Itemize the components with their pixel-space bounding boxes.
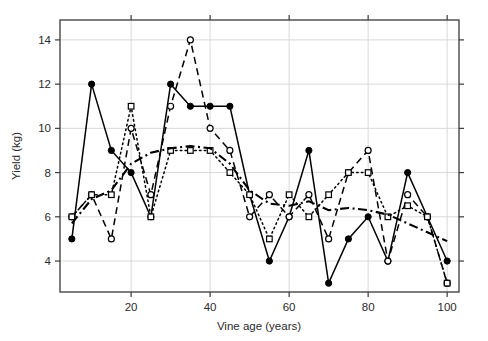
x-tick-label: 20 bbox=[125, 301, 138, 313]
data-point-open-square bbox=[267, 236, 273, 242]
data-point-open-circle bbox=[266, 192, 272, 198]
data-point-open-circle bbox=[128, 125, 134, 131]
data-point-open-square bbox=[89, 192, 95, 198]
data-point-open-square bbox=[286, 192, 292, 198]
data-point-open-square bbox=[306, 214, 312, 220]
data-point-open-circle bbox=[286, 214, 292, 220]
y-tick-label: 6 bbox=[45, 211, 51, 223]
x-tick-label: 100 bbox=[438, 301, 457, 313]
data-point-open-circle bbox=[306, 192, 312, 198]
data-point-filled-circle bbox=[108, 147, 114, 153]
data-point-open-square bbox=[188, 148, 194, 154]
data-point-filled-circle bbox=[89, 81, 95, 87]
x-tick-label: 40 bbox=[204, 301, 217, 313]
y-tick-label: 8 bbox=[45, 167, 51, 179]
data-point-open-square bbox=[405, 203, 411, 209]
y-tick-label: 12 bbox=[38, 78, 51, 90]
y-tick-label: 10 bbox=[38, 122, 51, 134]
data-point-open-circle bbox=[187, 37, 193, 43]
x-axis-title: Vine age (years) bbox=[217, 320, 301, 332]
data-point-open-circle bbox=[108, 236, 114, 242]
data-point-open-square bbox=[346, 170, 352, 176]
data-point-open-square bbox=[128, 103, 134, 109]
data-point-open-circle bbox=[247, 214, 253, 220]
data-point-filled-circle bbox=[128, 169, 134, 175]
data-point-open-square bbox=[109, 192, 115, 198]
data-point-open-circle bbox=[385, 258, 391, 264]
data-point-filled-circle bbox=[187, 103, 193, 109]
data-point-filled-circle bbox=[444, 258, 450, 264]
data-point-filled-circle bbox=[168, 81, 174, 87]
data-point-open-square bbox=[227, 170, 233, 176]
data-point-open-square bbox=[69, 214, 75, 220]
data-point-open-square bbox=[326, 192, 332, 198]
data-point-open-square bbox=[148, 214, 154, 220]
data-point-filled-circle bbox=[306, 147, 312, 153]
data-point-open-circle bbox=[207, 125, 213, 131]
y-axis-title: Yield (kg) bbox=[10, 132, 22, 180]
data-point-open-circle bbox=[168, 103, 174, 109]
data-point-open-circle bbox=[365, 147, 371, 153]
data-point-filled-circle bbox=[207, 103, 213, 109]
y-tick-label: 14 bbox=[38, 34, 51, 46]
data-point-filled-circle bbox=[326, 280, 332, 286]
data-point-open-circle bbox=[326, 236, 332, 242]
data-point-filled-circle bbox=[69, 236, 75, 242]
data-point-filled-circle bbox=[266, 258, 272, 264]
x-tick-label: 80 bbox=[362, 301, 375, 313]
data-point-open-square bbox=[365, 170, 371, 176]
data-point-open-circle bbox=[148, 192, 154, 198]
data-point-open-square bbox=[425, 214, 431, 220]
x-tick-label: 60 bbox=[283, 301, 296, 313]
data-point-filled-circle bbox=[227, 103, 233, 109]
data-point-open-square bbox=[444, 280, 450, 286]
yield-vs-vine-age-chart: 46810121420406080100 Vine age (years) Yi… bbox=[0, 0, 488, 341]
data-point-filled-circle bbox=[405, 169, 411, 175]
data-point-open-circle bbox=[405, 192, 411, 198]
data-point-filled-circle bbox=[365, 214, 371, 220]
data-point-open-circle bbox=[227, 147, 233, 153]
data-point-filled-circle bbox=[345, 236, 351, 242]
y-tick-label: 4 bbox=[45, 255, 52, 267]
chart-figure: 46810121420406080100 Vine age (years) Yi… bbox=[0, 0, 488, 341]
